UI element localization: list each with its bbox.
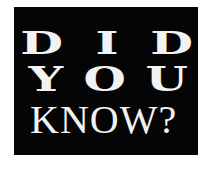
letter: I — [95, 30, 118, 57]
headline-line-did: D I D — [14, 29, 198, 57]
letter: O — [83, 65, 125, 94]
letter: D — [150, 30, 193, 57]
letter: D — [20, 30, 63, 57]
did-you-know-banner: D I D Y O U KNOW? — [14, 7, 198, 155]
headline-line-you: Y O U — [14, 64, 198, 94]
letter: U — [145, 65, 187, 94]
headline-line-know: KNOW? — [30, 102, 177, 138]
letter: Y — [29, 65, 64, 94]
